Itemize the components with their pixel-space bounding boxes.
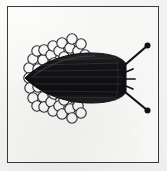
artwork-area xyxy=(7,6,159,163)
antenna-lower-knob-icon xyxy=(145,108,151,114)
egg-item xyxy=(76,108,86,118)
antenna-upper-knob-icon xyxy=(145,43,151,49)
illustration-plate xyxy=(0,0,167,171)
egg-item xyxy=(76,39,86,49)
insect-illustration-svg xyxy=(7,6,159,163)
